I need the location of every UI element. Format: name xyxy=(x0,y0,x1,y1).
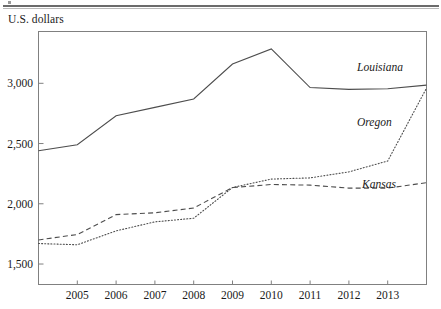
series-label-kansas: Kansas xyxy=(362,178,396,190)
series-label-oregon: Oregon xyxy=(357,116,392,128)
series-line-oregon xyxy=(39,88,427,245)
x-tick-label: 2011 xyxy=(290,289,330,301)
series-line-kansas xyxy=(39,183,427,240)
x-tick-label: 2013 xyxy=(368,289,408,301)
x-tick-label: 2012 xyxy=(329,289,369,301)
y-tick-marks xyxy=(39,83,44,264)
x-tick-label: 2009 xyxy=(213,289,253,301)
y-tick-label: 2,000 xyxy=(0,198,33,210)
series-label-louisiana: Louisiana xyxy=(357,61,403,73)
x-tick-marks xyxy=(77,281,387,285)
y-tick-label: 2,500 xyxy=(0,138,33,150)
x-tick-label: 2005 xyxy=(57,289,97,301)
x-tick-label: 2007 xyxy=(135,289,175,301)
y-tick-label: 3,000 xyxy=(0,77,33,89)
chart-figure: U.S. dollars 3,0002,5002,0001,500 200520… xyxy=(0,0,441,309)
y-tick-label: 1,500 xyxy=(0,258,33,270)
x-tick-label: 2008 xyxy=(174,289,214,301)
plot-area xyxy=(0,0,441,309)
x-tick-label: 2010 xyxy=(251,289,291,301)
x-tick-label: 2006 xyxy=(96,289,136,301)
